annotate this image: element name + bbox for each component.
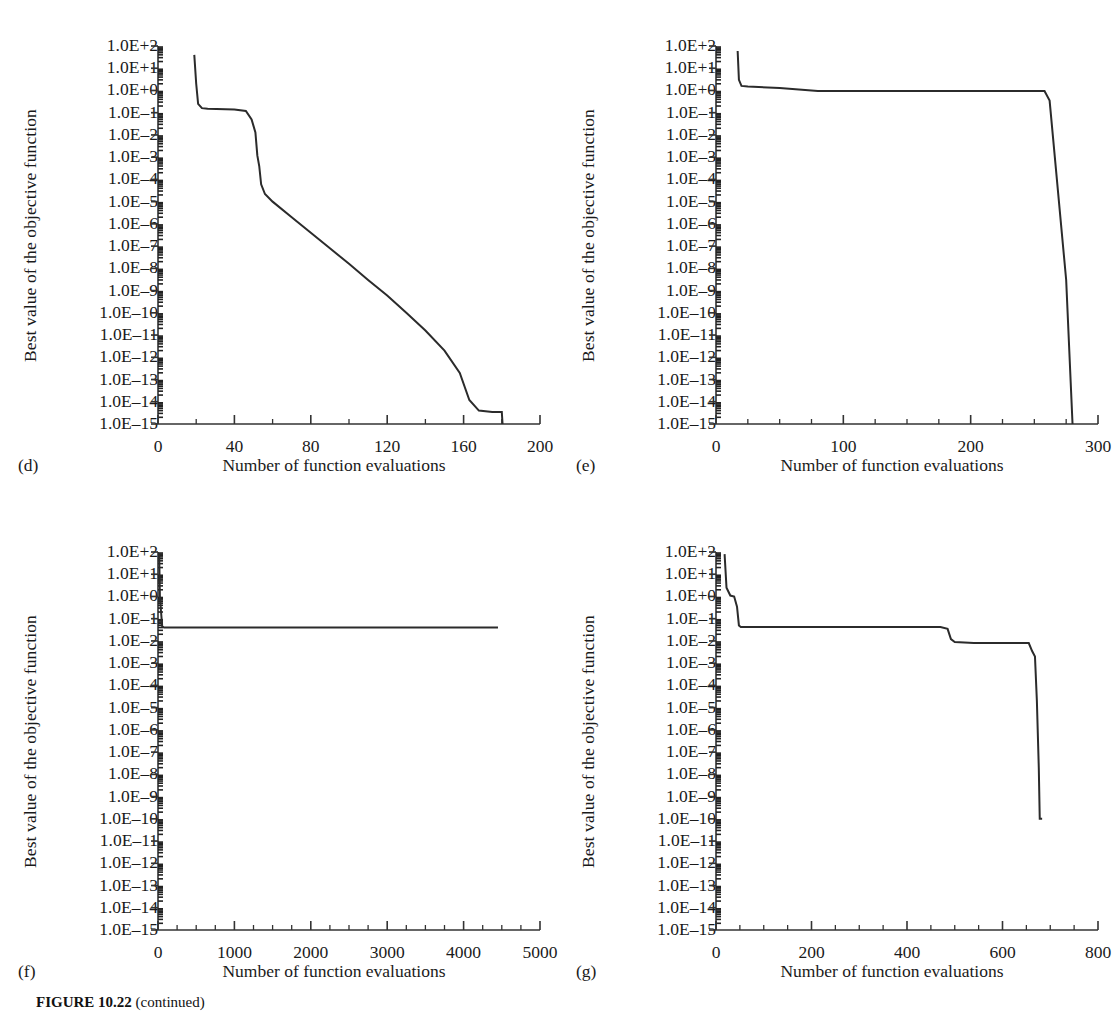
x-axis-label-d: Number of function evaluations [120, 457, 548, 475]
panel-tag-f: (f) [18, 963, 35, 981]
x-axis-label-e: Number of function evaluations [678, 457, 1106, 475]
x-tick-label: 0 [712, 438, 721, 456]
x-tick-label: 0 [154, 944, 163, 962]
chart-panel-f: Best value of the objective function 1.0… [0, 506, 558, 1012]
x-axis-label-f: Number of function evaluations [120, 963, 548, 981]
x-tick-labels-d: 04080120160200 [0, 0, 558, 506]
x-tick-label: 200 [958, 438, 984, 456]
x-tick-labels-g: 0200400600800 [558, 506, 1116, 1012]
x-tick-labels-e: 0100200300 [558, 0, 1116, 506]
panel-tag-d: (d) [18, 457, 38, 475]
x-tick-label: 80 [302, 438, 320, 456]
x-tick-label: 5000 [523, 944, 558, 962]
figure-panel-grid: Best value of the objective function 1.0… [0, 0, 1116, 1013]
x-tick-label: 0 [154, 438, 163, 456]
x-tick-label: 800 [1085, 944, 1111, 962]
figure-caption: FIGURE 10.22 (continued) [36, 994, 205, 1011]
x-tick-label: 300 [1085, 438, 1111, 456]
x-tick-label: 2000 [293, 944, 328, 962]
x-tick-label: 200 [527, 438, 553, 456]
chart-panel-e: Best value of the objective function 1.0… [558, 0, 1116, 506]
x-tick-label: 600 [989, 944, 1015, 962]
x-axis-label-g: Number of function evaluations [678, 963, 1106, 981]
x-tick-label: 1000 [217, 944, 252, 962]
panel-tag-e: (e) [576, 457, 595, 475]
x-tick-label: 200 [798, 944, 824, 962]
x-tick-label: 4000 [446, 944, 481, 962]
x-tick-label: 400 [894, 944, 920, 962]
panel-tag-g: (g) [576, 963, 596, 981]
figure-caption-continued: (continued) [132, 994, 205, 1010]
x-tick-label: 40 [226, 438, 244, 456]
chart-panel-d: Best value of the objective function 1.0… [0, 0, 558, 506]
figure-caption-number: FIGURE 10.22 [36, 994, 132, 1010]
x-tick-labels-f: 010002000300040005000 [0, 506, 558, 1012]
x-tick-label: 0 [712, 944, 721, 962]
x-tick-label: 160 [450, 438, 476, 456]
chart-panel-g: Best value of the objective function 1.0… [558, 506, 1116, 1012]
x-tick-label: 120 [374, 438, 400, 456]
x-tick-label: 100 [830, 438, 856, 456]
x-tick-label: 3000 [370, 944, 405, 962]
